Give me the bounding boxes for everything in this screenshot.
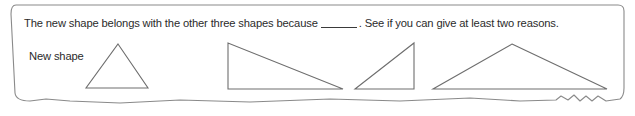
- shapes-row: [0, 0, 635, 116]
- new-shape-triangle: [86, 44, 148, 88]
- worksheet-card: The new shape belongs with the other thr…: [0, 0, 635, 116]
- triangle-right-obtuse-wide: [228, 43, 343, 89]
- triangle-wide-isosceles: [433, 44, 607, 89]
- triangle-right-small: [355, 43, 414, 89]
